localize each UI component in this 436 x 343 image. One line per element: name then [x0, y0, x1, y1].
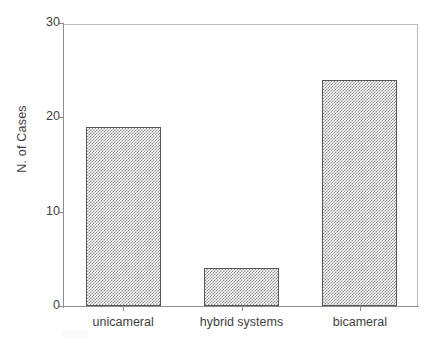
- scan-artifact: [62, 330, 88, 339]
- y-axis-title: N. of Cases: [15, 79, 29, 199]
- y-tick-label: 0: [53, 298, 60, 312]
- bar: [86, 127, 161, 306]
- x-tick-label: bicameral: [333, 315, 387, 329]
- x-tick-mark: [242, 306, 243, 311]
- x-tick-mark: [360, 306, 361, 311]
- x-tick-label: hybrid systems: [200, 315, 283, 329]
- x-tick-label: unicameral: [93, 315, 154, 329]
- bar: [204, 268, 279, 306]
- plot-area: 0102030 unicameralhybrid systemsbicamera…: [63, 24, 418, 307]
- y-tick-label: 10: [46, 204, 60, 218]
- y-tick-label: 20: [46, 109, 60, 123]
- bar: [322, 80, 397, 306]
- x-tick-mark: [123, 306, 124, 311]
- y-tick-label: 30: [46, 15, 60, 29]
- bars-group: [64, 25, 417, 306]
- bar-chart-figure: N. of Cases 0102030 unicameralhybrid sys…: [0, 0, 436, 343]
